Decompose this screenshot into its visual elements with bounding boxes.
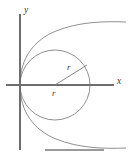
outer-curve-lower-branch: [20, 85, 126, 148]
outer-curve-upper-branch: [20, 22, 126, 85]
figure-container: y x r r: [0, 0, 132, 156]
radius-segment-diagonal: [55, 65, 87, 85]
radius-label-diagonal: r: [67, 62, 71, 72]
math-figure-svg: y x r r: [0, 0, 132, 156]
x-axis-label: x: [116, 76, 122, 86]
y-axis-label: y: [23, 5, 29, 15]
radius-label-center: r: [52, 88, 56, 98]
